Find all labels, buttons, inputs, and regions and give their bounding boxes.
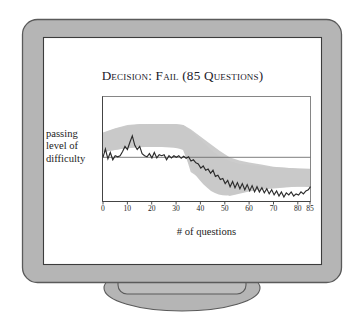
x-tick-label-40: 40: [197, 205, 205, 213]
y-axis-label-line-3: difficulty: [46, 153, 100, 165]
x-tick-label-0: 0: [101, 205, 105, 213]
x-tick-label-80: 80: [294, 205, 302, 213]
chart-title: Decision: Fail (85 Questions): [43, 69, 322, 82]
x-tick-label-30: 30: [172, 205, 180, 213]
y-axis-label-line-1: passing: [46, 128, 100, 140]
x-tick-label-85: 85: [306, 205, 314, 213]
x-tick-label-60: 60: [245, 205, 253, 213]
x-axis-caption: # of questions: [102, 227, 311, 238]
screenshot-canvas: Decision: Fail (85 Questions) passing le…: [0, 0, 364, 330]
y-axis-label: passing level of difficulty: [46, 128, 100, 165]
x-tick-label-70: 70: [270, 205, 278, 213]
x-tick-label-20: 20: [148, 205, 156, 213]
x-tick-label-10: 10: [124, 205, 132, 213]
y-axis-label-line-2: level of: [46, 140, 100, 152]
x-tick-label-50: 50: [221, 205, 229, 213]
